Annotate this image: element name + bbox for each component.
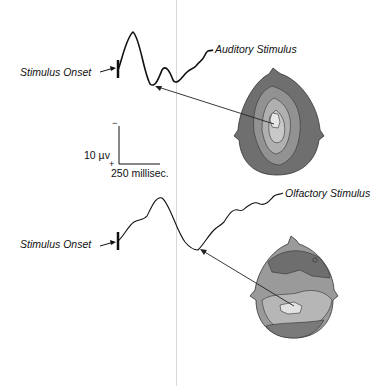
olfactory-waveform [118, 193, 283, 250]
olfactory-onset-label: Stimulus Onset [20, 238, 91, 250]
olfactory-stimulus-label: Olfactory Stimulus [285, 187, 370, 199]
auditory-waveform [118, 32, 213, 85]
scale-bar [119, 126, 160, 164]
scale-time-label: 250 millisec. [111, 167, 169, 179]
scale-minus-sign: − [112, 118, 117, 128]
auditory-onset-label: Stimulus Onset [20, 66, 91, 78]
auditory-head-map [234, 68, 324, 175]
scale-amplitude-label: 10 µv [84, 149, 110, 161]
auditory-stimulus-label: Auditory Stimulus [215, 43, 297, 55]
